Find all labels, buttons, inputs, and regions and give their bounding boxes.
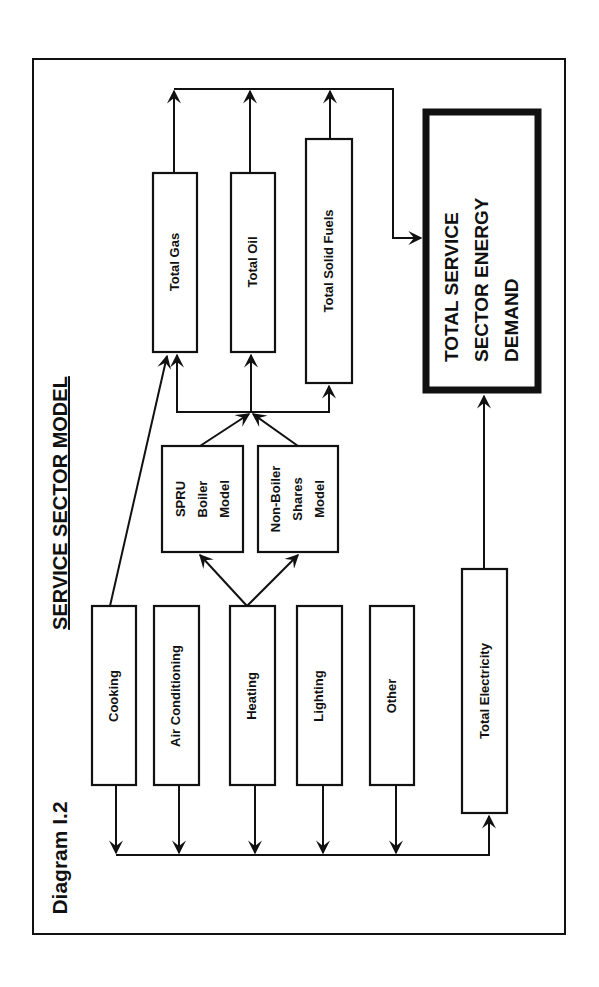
label-other: Other	[382, 606, 402, 786]
distribution-to-gas	[177, 355, 251, 412]
nonboiler-line-1: Non-Boiler	[265, 446, 287, 552]
demand-line-3: DEMAND	[497, 116, 527, 362]
label-heating: Heating	[242, 606, 262, 786]
label-non-boiler-shares-model: Non-Boiler Shares Model	[258, 446, 338, 552]
spru-line-3: Model	[214, 446, 236, 552]
arrow-heating-to-nonboiler	[247, 555, 298, 606]
demand-line-1: TOTAL SERVICE	[437, 116, 467, 362]
collector-to-demand	[174, 89, 421, 238]
diagram-label: Diagram I.2	[48, 778, 72, 938]
label-spru-boiler-model: SPRU Boiler Model	[163, 446, 243, 552]
label-total-oil: Total Oil	[243, 172, 263, 352]
arrow-heating-to-spru	[200, 555, 247, 606]
label-total-electricity: Total Electricity	[475, 601, 495, 781]
label-cooking: Cooking	[104, 606, 124, 786]
collector-to-electricity	[116, 816, 489, 855]
label-total-gas: Total Gas	[165, 172, 185, 352]
label-lighting: Lighting	[309, 606, 329, 786]
arrow-cooking-to-gas	[110, 356, 167, 606]
nonboiler-line-3: Model	[309, 446, 331, 552]
spru-line-2: Boiler	[192, 446, 214, 552]
diagram-title: SERVICE SECTOR MODEL	[48, 343, 72, 663]
spru-line-1: SPRU	[170, 446, 192, 552]
distribution-to-solid-fuels	[251, 386, 329, 412]
label-air-conditioning: Air Conditioning	[166, 606, 186, 786]
demand-line-2: SECTOR ENERGY	[467, 116, 497, 362]
label-total-solid-fuels: Total Solid Fuels	[319, 171, 339, 351]
label-total-service-sector-energy-demand: TOTAL SERVICE SECTOR ENERGY DEMAND	[437, 116, 527, 386]
arrow-nonboiler-to-junction	[253, 414, 298, 446]
arrow-spru-to-junction	[200, 414, 249, 446]
nonboiler-line-2: Shares	[287, 446, 309, 552]
